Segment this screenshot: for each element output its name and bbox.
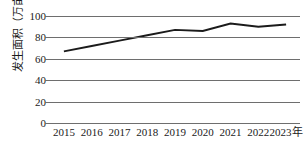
gridline-y-0	[50, 123, 300, 124]
gridline-y-80	[50, 37, 300, 38]
line-chart: 发生面积（万亩） 020406080100 201520162017201820…	[0, 0, 305, 148]
gridline-y-60	[50, 59, 300, 60]
gridline-y-20	[50, 102, 300, 103]
y-tick-mark-0	[45, 123, 50, 124]
y-tick-mark-60	[45, 59, 50, 60]
plot-area	[50, 16, 300, 123]
y-tick-mark-40	[45, 80, 50, 81]
gridline-y-40	[50, 80, 300, 81]
y-tick-mark-100	[45, 16, 50, 17]
series-line-发生面积	[50, 16, 300, 123]
y-tick-label-100: 100	[14, 11, 46, 22]
gridline-y-100	[50, 16, 300, 17]
y-tick-label-20: 20	[14, 97, 46, 108]
y-tick-label-80: 80	[14, 32, 46, 43]
y-tick-label-60: 60	[14, 54, 46, 65]
y-tick-label-40: 40	[14, 75, 46, 86]
y-tick-mark-20	[45, 102, 50, 103]
y-tick-mark-80	[45, 37, 50, 38]
x-axis-tick-labels: 201520162017201820192020202120222023年	[36, 126, 305, 142]
x-tick-label-2023: 2023年	[269, 127, 303, 138]
